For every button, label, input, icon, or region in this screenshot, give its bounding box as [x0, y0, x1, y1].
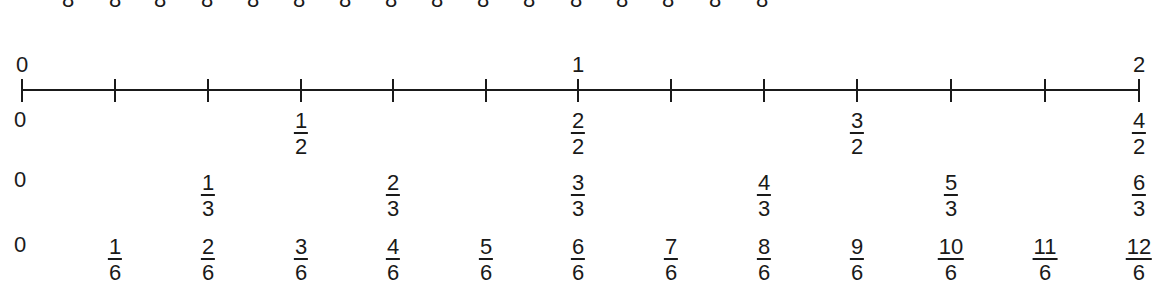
- cutoff-denominator: 8: [523, 0, 535, 11]
- cutoff-denominator: 8: [201, 0, 213, 11]
- cutoff-denominator: 8: [431, 0, 443, 11]
- tick-mark: [670, 79, 672, 102]
- fraction-numerator: 8: [757, 236, 771, 257]
- fraction-denominator: 3: [571, 198, 585, 219]
- sixths-zero-label: 0: [14, 235, 26, 255]
- fraction-label: 96: [850, 236, 864, 283]
- tick-mark: [392, 79, 394, 102]
- fraction-label: 23: [386, 172, 400, 219]
- cutoff-denominator: 8: [62, 0, 74, 11]
- tick-mark: [114, 79, 116, 102]
- fraction-numerator: 9: [850, 236, 864, 257]
- fraction-numerator: 5: [479, 236, 493, 257]
- tick-mark: [950, 79, 952, 102]
- fraction-label: 56: [479, 236, 493, 283]
- fraction-label: 116: [1033, 236, 1058, 283]
- fraction-label: 16: [108, 236, 122, 283]
- fraction-denominator: 3: [944, 198, 958, 219]
- fraction-numerator: 2: [571, 110, 585, 131]
- fraction-numerator: 4: [1132, 110, 1146, 131]
- fraction-numerator: 4: [757, 172, 771, 193]
- tick-mark: [485, 79, 487, 102]
- fraction-label: 36: [294, 236, 308, 283]
- fraction-denominator: 3: [1132, 198, 1146, 219]
- fraction-denominator: 6: [1038, 262, 1052, 283]
- fraction-numerator: 10: [938, 236, 964, 257]
- fraction-denominator: 2: [1132, 136, 1146, 157]
- fraction-denominator: 3: [201, 198, 215, 219]
- fraction-label: 46: [386, 236, 400, 283]
- cutoff-denominator: 8: [339, 0, 351, 11]
- fraction-numerator: 2: [386, 172, 400, 193]
- cutoff-denominator: 8: [247, 0, 259, 11]
- fraction-label: 76: [664, 236, 678, 283]
- fraction-label: 86: [757, 236, 771, 283]
- cutoff-denominator: 8: [109, 0, 121, 11]
- fraction-number-line-diagram: 8888888888888888 0 1 2 0 0 0 12223242 13…: [0, 0, 1167, 291]
- fraction-numerator: 3: [571, 172, 585, 193]
- number-line-axis: [22, 89, 1140, 91]
- tick-mark: [21, 79, 23, 102]
- fraction-numerator: 3: [850, 110, 864, 131]
- fraction-denominator: 6: [1132, 262, 1146, 283]
- fraction-denominator: 6: [108, 262, 122, 283]
- fraction-numerator: 2: [201, 236, 215, 257]
- tick-mark: [1138, 79, 1140, 102]
- fraction-numerator: 6: [571, 236, 585, 257]
- fraction-numerator: 11: [1033, 236, 1058, 257]
- fraction-denominator: 3: [757, 198, 771, 219]
- tick-mark: [856, 79, 858, 102]
- fraction-denominator: 6: [664, 262, 678, 283]
- cutoff-denominator: 8: [756, 0, 768, 11]
- fraction-denominator: 2: [571, 136, 585, 157]
- fraction-denominator: 6: [479, 262, 493, 283]
- fraction-label: 66: [571, 236, 585, 283]
- fraction-denominator: 6: [201, 262, 215, 283]
- fraction-label: 106: [938, 236, 964, 283]
- fraction-numerator: 5: [944, 172, 958, 193]
- fraction-label: 33: [571, 172, 585, 219]
- whole-label-2: 2: [1133, 55, 1145, 75]
- fraction-label: 126: [1126, 236, 1152, 283]
- fraction-label: 22: [571, 110, 585, 157]
- cutoff-denominator: 8: [154, 0, 166, 11]
- fraction-numerator: 3: [294, 236, 308, 257]
- fraction-denominator: 6: [294, 262, 308, 283]
- fraction-denominator: 6: [944, 262, 958, 283]
- cutoff-denominator: 8: [385, 0, 397, 11]
- fraction-label: 63: [1132, 172, 1146, 219]
- tick-mark: [1044, 79, 1046, 102]
- fraction-label: 43: [757, 172, 771, 219]
- fraction-denominator: 2: [294, 136, 308, 157]
- whole-label-1: 1: [572, 55, 584, 75]
- cutoff-denominator: 8: [662, 0, 674, 11]
- cutoff-denominator: 8: [570, 0, 582, 11]
- fraction-numerator: 7: [664, 236, 678, 257]
- fraction-label: 42: [1132, 110, 1146, 157]
- cutoff-denominator: 8: [293, 0, 305, 11]
- fraction-numerator: 1: [294, 110, 308, 131]
- whole-label-0: 0: [16, 55, 28, 75]
- fraction-label: 12: [294, 110, 308, 157]
- fraction-denominator: 6: [850, 262, 864, 283]
- fraction-label: 53: [944, 172, 958, 219]
- fraction-numerator: 12: [1126, 236, 1152, 257]
- fraction-numerator: 6: [1132, 172, 1146, 193]
- fraction-numerator: 1: [201, 172, 215, 193]
- tick-mark: [763, 79, 765, 102]
- fraction-denominator: 2: [850, 136, 864, 157]
- halves-zero-label: 0: [14, 110, 26, 130]
- tick-mark: [300, 79, 302, 102]
- fraction-label: 26: [201, 236, 215, 283]
- fraction-label: 13: [201, 172, 215, 219]
- tick-mark: [577, 79, 579, 102]
- cutoff-denominator: 8: [709, 0, 721, 11]
- tick-mark: [207, 79, 209, 102]
- fraction-numerator: 4: [386, 236, 400, 257]
- fraction-denominator: 6: [571, 262, 585, 283]
- fraction-denominator: 3: [386, 198, 400, 219]
- fraction-label: 32: [850, 110, 864, 157]
- fraction-denominator: 6: [757, 262, 771, 283]
- cutoff-denominator: 8: [616, 0, 628, 11]
- cutoff-denominator: 8: [477, 0, 489, 11]
